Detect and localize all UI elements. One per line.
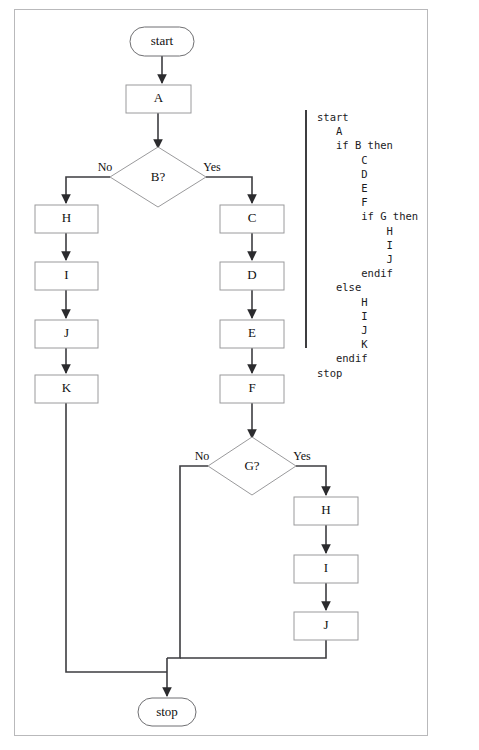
node-k-left-label: K: [62, 380, 72, 395]
node-start[interactable]: start: [130, 27, 194, 56]
node-a-label: A: [154, 90, 164, 105]
node-j-lower[interactable]: J: [294, 612, 358, 640]
node-k-left[interactable]: K: [35, 375, 98, 403]
node-h-left[interactable]: H: [35, 205, 98, 233]
edge-label-b-no: No: [98, 160, 113, 174]
edge-b-no-to-h: [66, 177, 110, 203]
node-c-label: C: [248, 210, 257, 225]
node-e[interactable]: E: [220, 320, 284, 348]
edge-label-g-yes: Yes: [293, 449, 311, 463]
node-d[interactable]: D: [220, 262, 284, 290]
node-h-left-label: H: [62, 210, 71, 225]
node-i-lower[interactable]: I: [294, 555, 358, 583]
node-a[interactable]: A: [126, 85, 191, 113]
node-i-lower-label: I: [324, 560, 328, 575]
node-f-label: F: [248, 380, 255, 395]
node-h-lower[interactable]: H: [294, 497, 358, 525]
edge-g-yes-to-h-lower: [296, 466, 326, 495]
node-g-decision[interactable]: G?: [208, 437, 296, 495]
edge-label-g-no: No: [195, 449, 210, 463]
node-c[interactable]: C: [220, 205, 284, 233]
node-b-decision[interactable]: B?: [110, 147, 206, 207]
edge-g-no-to-merge: [167, 466, 208, 658]
node-i-left-label: I: [64, 267, 68, 282]
pseudocode-text: start A if B then C D E F if G then H I …: [317, 110, 418, 380]
node-f[interactable]: F: [220, 375, 284, 403]
edge-j-lower-to-merge: [180, 640, 326, 658]
pseudocode-bracket-bar: [305, 110, 307, 348]
edge-label-b-yes: Yes: [203, 160, 221, 174]
node-d-label: D: [247, 267, 256, 282]
node-stop-label: stop: [156, 704, 178, 719]
edge-b-yes-to-c: [206, 177, 252, 203]
node-e-label: E: [248, 325, 256, 340]
edge-k-to-bottom-junction: [66, 403, 167, 672]
node-start-label: start: [151, 33, 174, 48]
page-canvas: start A B? No Yes H I J K: [0, 0, 479, 750]
node-j-left[interactable]: J: [35, 320, 98, 348]
node-j-lower-label: J: [323, 617, 328, 632]
node-j-left-label: J: [64, 325, 69, 340]
node-b-label: B?: [151, 169, 166, 184]
node-h-lower-label: H: [321, 502, 330, 517]
node-g-label: G?: [244, 458, 259, 473]
node-stop[interactable]: stop: [138, 698, 196, 726]
node-i-left[interactable]: I: [35, 262, 98, 290]
